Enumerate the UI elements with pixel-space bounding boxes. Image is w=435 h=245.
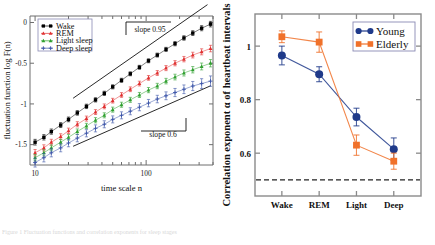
legend-label: Elderly bbox=[376, 38, 409, 50]
marker-triangle bbox=[85, 116, 89, 120]
marker-square bbox=[156, 53, 159, 56]
marker-plus bbox=[59, 146, 63, 150]
marker-triangle bbox=[164, 66, 168, 70]
marker-square bbox=[120, 79, 123, 82]
marker-triangle bbox=[111, 108, 115, 112]
y-axis-label: fluctuation function log F(n) bbox=[2, 41, 12, 139]
marker-square bbox=[200, 27, 203, 30]
marker-plus bbox=[182, 87, 186, 91]
y-tick-label: -0.5 bbox=[15, 59, 27, 68]
dfa-legend[interactable]: WakeREMLight sleepDeep sleep bbox=[38, 19, 93, 53]
marker-plus bbox=[173, 91, 177, 95]
marker-square bbox=[59, 123, 62, 126]
marker-plus bbox=[67, 141, 71, 145]
marker-plus bbox=[120, 113, 124, 117]
marker-plus bbox=[42, 156, 46, 160]
marker-triangle bbox=[59, 140, 63, 144]
exponent-legend[interactable]: YoungElderly bbox=[353, 22, 415, 51]
marker-square bbox=[50, 130, 53, 133]
marker-triangle bbox=[59, 134, 63, 138]
marker-plus bbox=[137, 105, 141, 109]
marker-plus bbox=[111, 117, 115, 121]
marker-circle bbox=[315, 70, 323, 78]
legend-marker-square bbox=[356, 41, 362, 47]
series-line bbox=[282, 37, 394, 161]
figure-container: 0-0.5-1-1.510100time scale nfluctuation … bbox=[0, 0, 435, 245]
marker-triangle bbox=[138, 93, 142, 97]
marker-square bbox=[85, 105, 88, 108]
marker-square bbox=[390, 158, 397, 165]
marker-triangle bbox=[102, 104, 106, 108]
x-tick-label: 100 bbox=[141, 169, 152, 178]
marker-circle bbox=[390, 145, 398, 153]
x-category-label: Deep bbox=[384, 200, 404, 210]
series-elderly bbox=[278, 31, 397, 169]
marker-triangle bbox=[155, 84, 159, 88]
marker-triangle bbox=[94, 118, 98, 122]
marker-plus bbox=[164, 94, 168, 98]
x-category-label: Wake bbox=[271, 200, 293, 210]
marker-square bbox=[182, 36, 185, 39]
marker-square bbox=[353, 142, 360, 149]
marker-triangle bbox=[173, 75, 177, 79]
legend-label: Deep sleep bbox=[56, 44, 92, 53]
marker-triangle bbox=[49, 140, 53, 144]
marker-triangle bbox=[75, 122, 79, 126]
marker-plus bbox=[128, 109, 132, 113]
marker-triangle bbox=[155, 71, 159, 75]
exponent-plot-svg: 10.80.6WakeREMLightDeepCorrelation expon… bbox=[215, 0, 435, 222]
marker-triangle bbox=[94, 110, 98, 114]
legend-marker-square bbox=[42, 24, 45, 27]
marker-plus bbox=[75, 136, 79, 140]
y-tick-label: 0.8 bbox=[240, 95, 252, 105]
marker-triangle bbox=[111, 99, 115, 103]
marker-triangle bbox=[33, 151, 37, 155]
marker-triangle bbox=[138, 81, 142, 85]
marker-triangle bbox=[120, 93, 124, 97]
y-tick-label: -1 bbox=[21, 100, 27, 109]
marker-plus bbox=[146, 101, 150, 105]
marker-square bbox=[209, 22, 212, 25]
marker-triangle bbox=[85, 124, 89, 128]
legend-marker-square bbox=[49, 24, 52, 27]
marker-triangle bbox=[147, 76, 151, 80]
marker-circle bbox=[352, 113, 360, 121]
slope-guide-upper-label: slope 0.95 bbox=[134, 25, 165, 34]
marker-triangle bbox=[164, 79, 168, 83]
x-tick-label: 10 bbox=[31, 169, 39, 178]
series-young bbox=[278, 46, 398, 160]
marker-plus bbox=[84, 131, 88, 135]
marker-circle bbox=[278, 51, 286, 59]
slope-guide-lower bbox=[73, 86, 211, 147]
marker-triangle bbox=[67, 129, 71, 133]
marker-triangle bbox=[75, 130, 79, 134]
y-tick-label: -1.5 bbox=[15, 140, 27, 149]
marker-triangle bbox=[182, 57, 186, 61]
dfa-plot-svg: 0-0.5-1-1.510100time scale nfluctuation … bbox=[0, 0, 215, 200]
marker-triangle bbox=[102, 113, 106, 117]
marker-plus bbox=[94, 126, 98, 130]
marker-square bbox=[103, 92, 106, 95]
panel-dfa-fluctuation: 0-0.5-1-1.510100time scale nfluctuation … bbox=[0, 0, 215, 200]
marker-square bbox=[173, 42, 176, 45]
marker-triangle bbox=[209, 46, 213, 50]
marker-square bbox=[129, 72, 132, 75]
y-axis-label: Correlation exponent α of heartbeat inte… bbox=[221, 3, 232, 206]
marker-triangle bbox=[42, 146, 46, 150]
marker-square bbox=[67, 118, 70, 121]
marker-square bbox=[76, 111, 79, 114]
x-category-label: REM bbox=[309, 200, 331, 210]
marker-square bbox=[138, 66, 141, 69]
marker-plus bbox=[102, 122, 106, 126]
marker-square bbox=[191, 31, 194, 34]
marker-triangle bbox=[120, 103, 124, 107]
marker-square bbox=[94, 98, 97, 101]
marker-square bbox=[147, 59, 150, 62]
marker-triangle bbox=[147, 88, 151, 92]
marker-square bbox=[111, 85, 114, 88]
y-tick-label: 0.6 bbox=[240, 149, 252, 159]
marker-plus bbox=[209, 79, 213, 83]
marker-square bbox=[33, 141, 36, 144]
marker-triangle bbox=[67, 135, 71, 139]
legend-marker-circle bbox=[356, 28, 362, 34]
